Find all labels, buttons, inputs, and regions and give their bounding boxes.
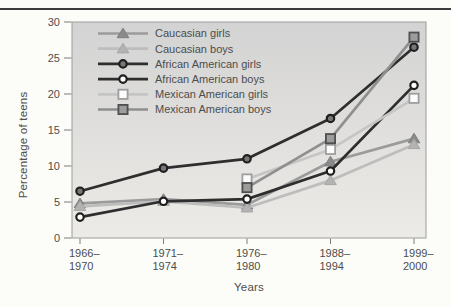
- circle-filled-marker: [243, 155, 250, 162]
- y-tick-label: 30: [48, 16, 60, 28]
- y-tick-label: 25: [48, 52, 60, 64]
- x-axis-title: Years: [234, 281, 264, 293]
- legend-item-mexican-american-girls: Mexican American girls: [98, 88, 269, 100]
- x-tick-label-line2: 1994: [320, 260, 344, 272]
- x-tick-label-line2: 1970: [69, 260, 93, 272]
- legend-item-african-american-boys: African American boys: [98, 73, 265, 85]
- legend-item-mexican-american-boys: Mexican American boys: [98, 103, 272, 115]
- legend-label: African American boys: [155, 73, 265, 85]
- figure-panel: 0510152025301966–19701971–19741976–19801…: [0, 0, 451, 307]
- circle-open-marker: [410, 82, 417, 89]
- legend-item-african-american-girls: African American girls: [98, 58, 262, 70]
- x-tick-label-line1: 1976–: [236, 247, 267, 259]
- legend-label: Mexican American girls: [155, 88, 269, 100]
- square-open-marker: [118, 90, 127, 99]
- circle-open-marker: [160, 198, 167, 205]
- circle-open-marker: [243, 195, 250, 202]
- x-tick-label-line1: 1999–: [403, 247, 434, 259]
- circle-open-marker: [327, 167, 334, 174]
- y-tick-label: 5: [54, 196, 60, 208]
- circle-open-marker: [119, 75, 126, 82]
- square-filled-marker: [409, 33, 418, 42]
- square-filled-marker: [118, 105, 127, 114]
- legend-label: Mexican American boys: [155, 103, 272, 115]
- y-tick-label: 10: [48, 160, 60, 172]
- square-open-marker: [409, 94, 418, 103]
- legend-label: Caucasian girls: [155, 27, 231, 39]
- circle-filled-marker: [76, 188, 83, 195]
- y-tick-label: 15: [48, 124, 60, 136]
- circle-open-marker: [76, 213, 83, 220]
- overweight-teens-line-chart: 0510152025301966–19701971–19741976–19801…: [0, 0, 451, 307]
- circle-filled-marker: [160, 164, 167, 171]
- x-tick-label-line1: 1988–: [320, 247, 351, 259]
- y-tick-label: 20: [48, 88, 60, 100]
- x-tick-label-line2: 1974: [153, 260, 177, 272]
- legend-label: African American girls: [155, 58, 262, 70]
- x-tick-label-line2: 1980: [236, 260, 260, 272]
- x-tick-label-line1: 1971–: [153, 247, 184, 259]
- legend-label: Caucasian boys: [155, 43, 234, 55]
- x-tick-label-line1: 1966–: [69, 247, 100, 259]
- square-open-marker: [326, 145, 335, 154]
- circle-filled-marker: [410, 44, 417, 51]
- y-axis-title: Percentage of teens: [17, 92, 29, 199]
- circle-filled-marker: [327, 115, 334, 122]
- circle-filled-marker: [119, 60, 126, 67]
- square-filled-marker: [242, 183, 251, 192]
- square-filled-marker: [326, 134, 335, 143]
- y-tick-label: 0: [54, 232, 60, 244]
- x-tick-label-line2: 2000: [403, 260, 427, 272]
